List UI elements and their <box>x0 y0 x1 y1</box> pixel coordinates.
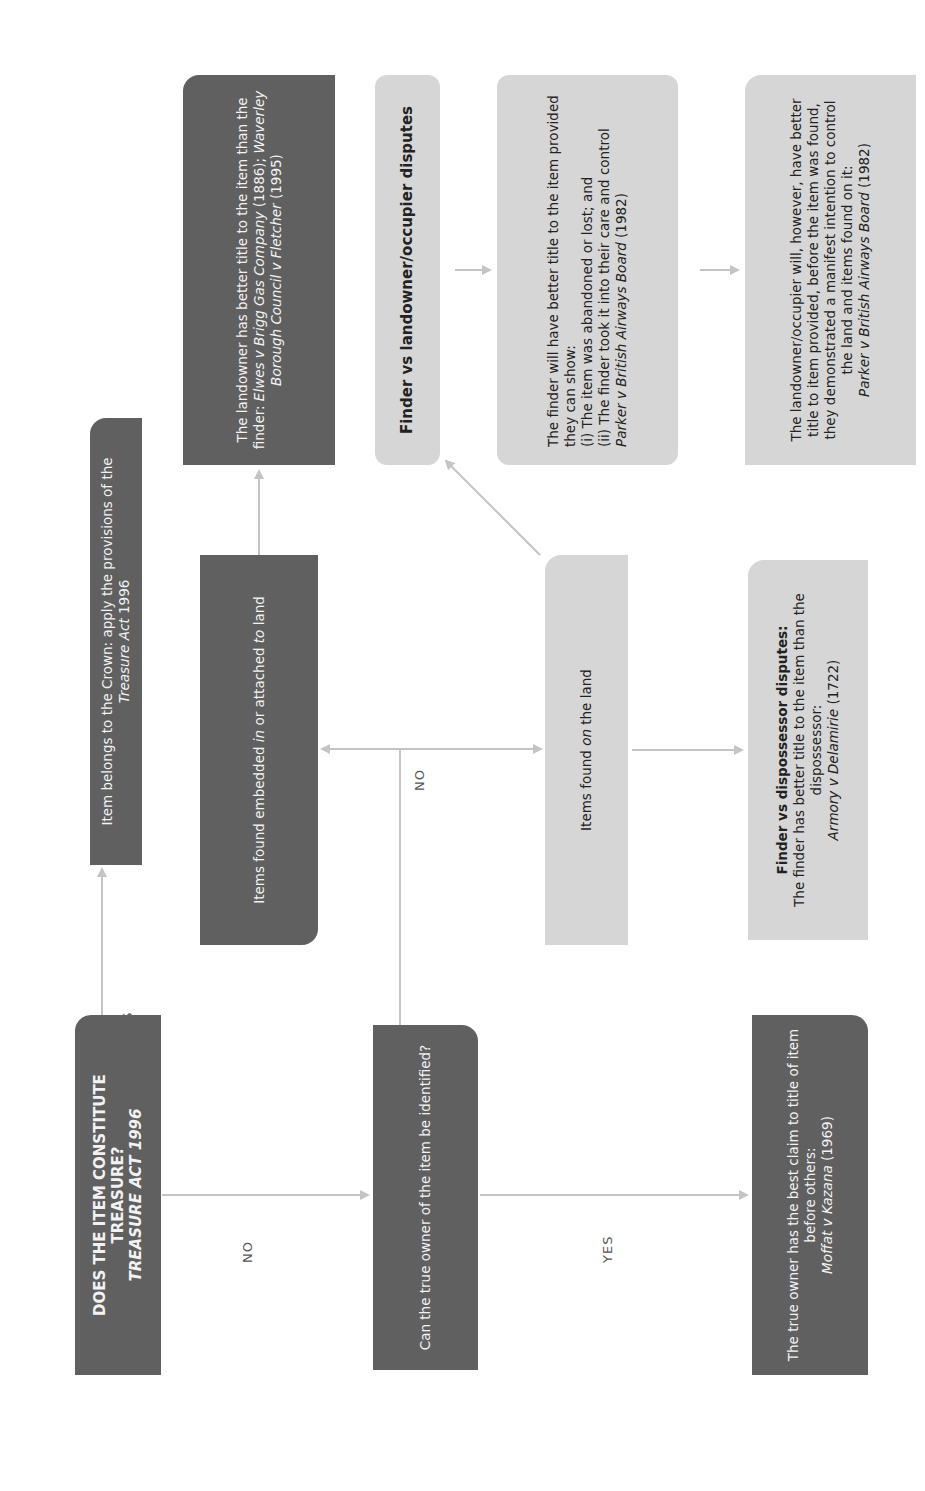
finder-better-point2: (ii) The finder took it into their care … <box>596 128 613 447</box>
embedded-text: Items found embedded in or attached to l… <box>251 596 268 904</box>
node-landowner-better: The landowner has better title to the it… <box>183 75 335 465</box>
node-embedded: Items found embedded in or attached to l… <box>200 555 318 945</box>
landowner-better-text: The landowner has better title to the it… <box>234 87 285 453</box>
true-owner-case: Moffat v Kazana (1969) <box>819 1116 836 1274</box>
crown-text: Item belongs to the Crown: apply the pro… <box>99 430 133 853</box>
label-treasure-no: NO <box>240 1241 255 1263</box>
node-owner-question: Can the true owner of the item be identi… <box>373 1025 478 1370</box>
finder-better-intro: The finder will have better title to the… <box>545 93 579 447</box>
flowchart-canvas: YES NO YES NO DOES THE ITEM CONSTITUTE T… <box>0 0 925 1491</box>
finder-better-point1: (i) The item was abandoned or lost; and <box>579 177 596 447</box>
treasure-question-line1: DOES THE ITEM CONSTITUTE <box>91 1074 109 1316</box>
node-on-land: Items found on the land <box>545 555 628 945</box>
label-owner-yes: YES <box>600 1236 615 1263</box>
true-owner-text: The true owner has the best claim to tit… <box>785 1027 819 1363</box>
treasure-question-line3: TREASURE ACT 1996 <box>127 1109 145 1282</box>
node-true-owner-result: The true owner has the best claim to tit… <box>752 1015 868 1375</box>
treasure-question-line2: TREASURE? <box>109 1146 127 1243</box>
dispossessor-heading: Finder vs dispossessor disputes: <box>774 626 791 875</box>
node-dispossessor: Finder vs dispossessor disputes: The fin… <box>748 560 868 940</box>
node-treasure-question: DOES THE ITEM CONSTITUTE TREASURE? TREAS… <box>75 1015 161 1375</box>
finder-vs-landowner-heading: Finder vs landowner/occupier disputes <box>399 106 416 434</box>
dispossessor-case: Armory v Delamirie (1722) <box>825 660 842 841</box>
finder-better-case: Parker v British Airways Board (1982) <box>613 193 630 447</box>
owner-question-text: Can the true owner of the item be identi… <box>417 1045 434 1350</box>
on-land-text: Items found on the land <box>578 669 595 831</box>
node-finder-vs-landowner: Finder vs landowner/occupier disputes <box>375 75 440 465</box>
landowner-occupier-case: Parker v British Airways Board (1982) <box>856 143 873 397</box>
label-owner-no: NO <box>412 769 427 791</box>
node-crown: Item belongs to the Crown: apply the pro… <box>90 418 142 865</box>
dispossessor-text: The finder has better title to the item … <box>791 572 825 928</box>
arrow-onland-finder-landowner <box>446 461 540 555</box>
node-landowner-occupier: The landowner/occupier will, however, ha… <box>745 75 916 465</box>
landowner-occupier-text: The landowner/occupier will, however, ha… <box>788 93 856 447</box>
node-finder-better: The finder will have better title to the… <box>497 75 678 465</box>
